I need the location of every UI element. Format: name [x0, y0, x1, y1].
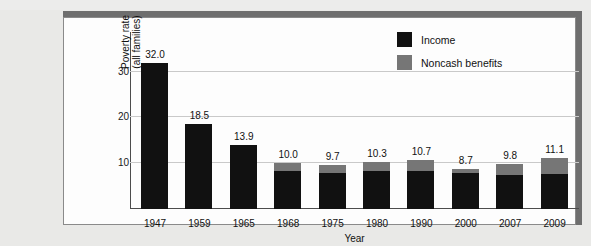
y-tick-label: 20: [99, 111, 129, 122]
bar-value-label: 11.1: [532, 144, 578, 155]
bar-stack[interactable]: [141, 63, 168, 209]
bar-segment-noncash[interactable]: [496, 164, 523, 175]
bar-group[interactable]: 10.01968: [274, 36, 301, 209]
legend: IncomeNoncash benefits: [397, 30, 567, 76]
x-tick-label: 1947: [132, 218, 178, 229]
bar-value-label: 13.9: [221, 131, 267, 142]
y-tick-label: 10: [99, 157, 129, 168]
bar-group[interactable]: 18.51959: [185, 36, 212, 209]
y-axis-title-line-1: Poverty rate: [120, 0, 131, 87]
bar-stack[interactable]: [363, 162, 390, 209]
legend-item[interactable]: Income: [397, 30, 567, 49]
bar-segment-income[interactable]: [319, 173, 346, 209]
x-tick-label: 1980: [354, 218, 400, 229]
bar-stack[interactable]: [452, 169, 479, 209]
bar-value-label: 10.3: [354, 148, 400, 159]
bar-segment-noncash[interactable]: [274, 163, 301, 171]
bar-group[interactable]: 9.71975: [319, 36, 346, 209]
bar-value-label: 8.7: [443, 155, 489, 166]
bar-stack[interactable]: [496, 164, 523, 209]
bar-value-label: 9.8: [487, 150, 533, 161]
bar-value-label: 10.7: [398, 146, 444, 157]
legend-label: Income: [421, 34, 455, 46]
bar-segment-noncash[interactable]: [541, 158, 568, 174]
bar-value-label: 18.5: [176, 110, 222, 121]
x-tick-label: 1990: [398, 218, 444, 229]
x-tick-label: 1965: [221, 218, 267, 229]
x-axis-title: Year: [130, 233, 579, 244]
bar-stack[interactable]: [407, 160, 434, 209]
bar-segment-income[interactable]: [363, 171, 390, 209]
bar-value-label: 9.7: [310, 151, 356, 162]
bar-stack[interactable]: [274, 163, 301, 209]
bar-segment-income[interactable]: [141, 63, 168, 209]
bar-segment-income[interactable]: [185, 124, 212, 209]
bar-stack[interactable]: [230, 145, 257, 209]
x-tick-label: 1975: [310, 218, 356, 229]
page-background-artifact: [0, 0, 591, 10]
bar-segment-income[interactable]: [407, 171, 434, 209]
bar-segment-income[interactable]: [452, 173, 479, 209]
bar-segment-income[interactable]: [274, 171, 301, 209]
x-tick-label: 1968: [265, 218, 311, 229]
x-tick-label: 2000: [443, 218, 489, 229]
x-tick-label: 2009: [532, 218, 578, 229]
legend-item[interactable]: Noncash benefits: [397, 53, 567, 72]
bar-segment-income[interactable]: [496, 175, 523, 209]
bar-segment-noncash[interactable]: [363, 162, 390, 171]
legend-swatch-income: [397, 32, 412, 47]
x-tick-label: 1959: [176, 218, 222, 229]
bar-stack[interactable]: [185, 124, 212, 209]
legend-label: Noncash benefits: [421, 57, 502, 69]
bar-stack[interactable]: [541, 158, 568, 209]
bar-group[interactable]: 13.91965: [230, 36, 257, 209]
legend-swatch-noncash: [397, 55, 412, 70]
bar-group[interactable]: 10.31980: [363, 36, 390, 209]
bar-stack[interactable]: [319, 165, 346, 209]
bar-segment-income[interactable]: [230, 145, 257, 209]
bar-segment-noncash[interactable]: [319, 165, 346, 174]
y-axis-title: Poverty rate (all families): [120, 0, 142, 87]
bar-segment-noncash[interactable]: [407, 160, 434, 171]
figure-frame: 102030 32.0194718.5195913.9196510.019689…: [63, 11, 582, 225]
figure-plate: 102030 32.0194718.5195913.9196510.019689…: [63, 17, 576, 225]
bar-segment-income[interactable]: [541, 174, 568, 209]
bar-value-label: 10.0: [265, 149, 311, 160]
x-tick-label: 2007: [487, 218, 533, 229]
y-axis-title-line-2: (all families): [131, 0, 142, 87]
bar-group[interactable]: 32.01947: [141, 36, 168, 209]
